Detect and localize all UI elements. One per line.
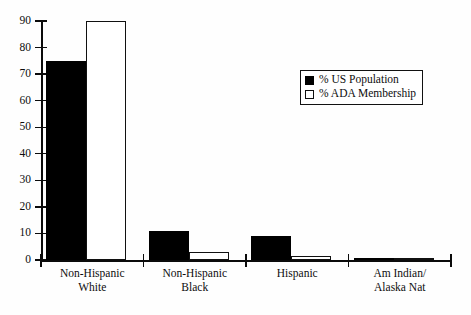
bar (291, 256, 331, 260)
y-axis-tick-label: 90 (3, 15, 31, 27)
bar (251, 236, 291, 260)
bar (189, 252, 229, 260)
bars-layer (41, 21, 451, 260)
y-axis-tick-label: 60 (3, 95, 31, 107)
bar (354, 258, 394, 260)
x-axis-category-label: Non-HispanicWhite (41, 266, 144, 295)
y-axis-tick-label: 10 (3, 227, 31, 239)
bar-chart: 9080706050403020100 Non-HispanicWhiteNon… (0, 0, 471, 315)
y-axis-tick-label: 20 (3, 201, 31, 213)
chart-legend: % US Population % ADA Membership (300, 70, 423, 105)
legend-label-ada-membership: % ADA Membership (319, 88, 416, 100)
bar (149, 231, 189, 260)
y-axis-tick-label: 0 (3, 254, 31, 266)
legend-swatch-icon-us-population (305, 76, 314, 85)
y-axis-tick-label: 40 (3, 148, 31, 160)
bar (46, 61, 86, 260)
x-axis-category-label: Non-HispanicBlack (144, 266, 247, 295)
legend-item-us-population: % US Population (305, 73, 416, 87)
x-axis-category-label: Hispanic (246, 266, 349, 280)
y-axis-tick-label: 80 (3, 42, 31, 54)
bar (394, 258, 434, 260)
y-axis-tick-label: 50 (3, 121, 31, 133)
y-axis-tick-label: 30 (3, 174, 31, 186)
y-axis-tick-label: 70 (3, 68, 31, 80)
legend-item-ada-membership: % ADA Membership (305, 87, 416, 101)
bar (86, 21, 126, 260)
x-axis-category-label: Am Indian/Alaska Nat (349, 266, 452, 295)
legend-label-us-population: % US Population (319, 74, 399, 86)
legend-swatch-icon-ada-membership (305, 90, 314, 99)
